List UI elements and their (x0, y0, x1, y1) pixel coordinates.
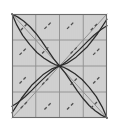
phase-portrait-plot (0, 0, 117, 130)
figure-container (0, 0, 117, 130)
equilibrium-node (58, 65, 61, 68)
